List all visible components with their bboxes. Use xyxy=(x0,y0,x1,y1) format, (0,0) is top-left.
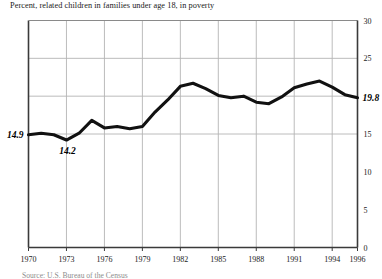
svg-text:1973: 1973 xyxy=(58,255,74,264)
svg-text:1996: 1996 xyxy=(350,255,366,264)
svg-text:19.8: 19.8 xyxy=(363,93,380,103)
svg-text:0: 0 xyxy=(364,244,368,253)
svg-text:25: 25 xyxy=(364,54,372,63)
data-value-labels: 14.914.219.8 xyxy=(7,93,380,156)
poverty-rate-line xyxy=(29,81,358,140)
svg-text:1991: 1991 xyxy=(286,255,302,264)
svg-text:1994: 1994 xyxy=(324,255,340,264)
y-axis-labels: 0510152530 xyxy=(364,17,372,253)
svg-text:1985: 1985 xyxy=(210,255,226,264)
svg-text:30: 30 xyxy=(364,17,372,26)
svg-text:1976: 1976 xyxy=(96,255,112,264)
svg-text:14.9: 14.9 xyxy=(7,130,24,140)
chart-plot-area: 0510152530 19701973197619791982198519881… xyxy=(0,0,382,279)
svg-text:1982: 1982 xyxy=(172,255,188,264)
chart-svg: 0510152530 19701973197619791982198519881… xyxy=(0,0,382,279)
horizontal-gridlines xyxy=(29,58,358,134)
svg-text:14.2: 14.2 xyxy=(59,146,76,156)
x-axis-labels: 1970197319761979198219851988199119941996 xyxy=(21,255,366,264)
svg-text:15: 15 xyxy=(364,130,372,139)
svg-text:5: 5 xyxy=(364,206,368,215)
svg-text:1979: 1979 xyxy=(134,255,150,264)
source-note: Source: U.S. Bureau of the Census xyxy=(22,271,128,279)
svg-text:1970: 1970 xyxy=(21,255,37,264)
svg-text:1988: 1988 xyxy=(248,255,264,264)
svg-text:10: 10 xyxy=(364,168,372,177)
